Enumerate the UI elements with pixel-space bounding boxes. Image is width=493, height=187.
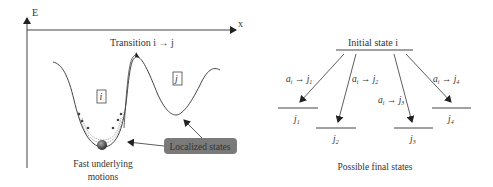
state-i-label: i (100, 91, 103, 102)
rate-label-j2: ai → j2 (352, 74, 378, 85)
transition-arrow-j3 (394, 54, 412, 122)
star-markers (78, 113, 123, 130)
pointer-arrow-right (184, 120, 202, 138)
final-state-label-j2: j2 (331, 134, 339, 145)
final-state-label-j3: j3 (408, 134, 416, 145)
localized-states-label: Localized states (170, 142, 231, 152)
fast-motions-label-1: Fast underlying (73, 159, 133, 169)
final-states-caption: Possible final states (338, 162, 413, 172)
axis-x-label: x (238, 18, 243, 29)
transition-arrow-j2 (338, 54, 356, 122)
particle-ball (97, 140, 107, 150)
fast-motion-lines (78, 112, 124, 143)
axis-y-label: E (32, 7, 38, 18)
rate-label-j1: ai → j1 (286, 74, 312, 85)
transition-label: Transition i → j (110, 37, 174, 48)
left-panel: E x Transition i → j i j Localized state… (27, 7, 243, 182)
pointer-arrow-left (128, 142, 164, 146)
fast-motions-label-2: motions (88, 172, 119, 182)
initial-state-label: Initial state i (348, 37, 398, 48)
transition-arrow-head (135, 52, 139, 57)
rate-label-j3: ai → j3 (378, 95, 404, 106)
final-state-label-j1: j1 (292, 114, 300, 125)
final-state-label-j4: j4 (446, 114, 454, 125)
energy-curve (53, 57, 220, 147)
rate-label-j4: ai → j4 (433, 74, 459, 85)
right-panel: Initial state i ai → j1 ai → j2 ai → j3 … (278, 37, 471, 172)
energy-landscape-diagram: E x Transition i → j i j Localized state… (0, 0, 493, 187)
